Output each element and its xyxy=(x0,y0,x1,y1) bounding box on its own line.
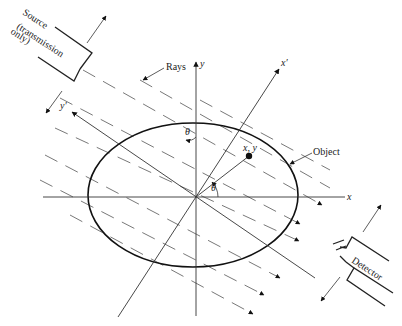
detector-arrow-down-icon xyxy=(321,277,340,301)
detector-arrow-up-icon xyxy=(363,205,381,232)
source-box xyxy=(38,16,106,113)
y-axis-label: y xyxy=(199,58,205,69)
rays-label: Rays xyxy=(166,61,186,72)
y-prime-label: y′ xyxy=(59,100,67,111)
x-prime-axis xyxy=(118,69,279,317)
point-dot xyxy=(246,153,252,159)
theta-arc-top-icon xyxy=(186,137,196,140)
rays-pointer-icon xyxy=(143,68,164,80)
source-arrow-up-icon xyxy=(87,16,106,43)
rays xyxy=(40,70,330,314)
x-prime-label: x′ xyxy=(280,57,288,68)
point-label: x, y xyxy=(242,142,257,153)
tomography-diagram: Source (transmission only) xyxy=(0,0,402,326)
x-axis-label: x xyxy=(346,191,352,202)
position-vector xyxy=(196,156,249,197)
object-label: Object xyxy=(313,146,340,157)
y-prime-axis xyxy=(72,112,315,278)
theta-top-label: θ xyxy=(185,126,190,137)
theta-origin-label: θ xyxy=(211,182,216,193)
